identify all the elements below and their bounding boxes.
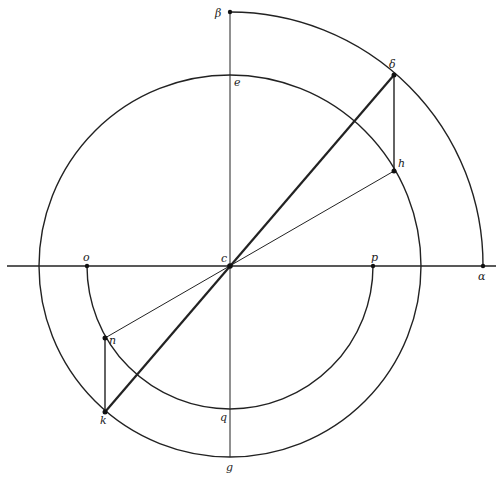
label-beta: β bbox=[214, 7, 221, 20]
point-alpha bbox=[481, 264, 485, 268]
geometric-diagram: β δ e h o c p α n k q g bbox=[0, 0, 501, 477]
outer-quarter-arc bbox=[230, 12, 483, 266]
label-delta: δ bbox=[389, 58, 396, 71]
line-n-h bbox=[105, 171, 394, 338]
label-h: h bbox=[398, 157, 405, 170]
point-beta bbox=[228, 10, 232, 14]
label-c: c bbox=[221, 252, 227, 265]
point-n bbox=[103, 336, 108, 341]
label-n: n bbox=[109, 334, 116, 347]
label-o: o bbox=[83, 251, 90, 264]
label-g: g bbox=[226, 461, 233, 474]
label-p: p bbox=[371, 251, 378, 264]
point-o bbox=[85, 264, 89, 268]
point-p bbox=[371, 264, 375, 268]
point-delta bbox=[392, 73, 397, 78]
label-k: k bbox=[100, 414, 107, 427]
point-c bbox=[227, 263, 233, 269]
label-e: e bbox=[234, 76, 241, 89]
label-alpha: α bbox=[478, 270, 486, 283]
label-q: q bbox=[220, 411, 227, 424]
point-h bbox=[392, 169, 397, 174]
line-k-delta bbox=[105, 75, 394, 412]
